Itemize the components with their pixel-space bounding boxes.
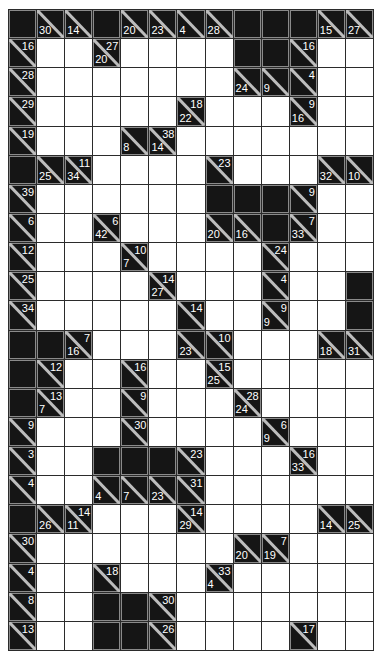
entry-cell[interactable]: [149, 243, 176, 271]
entry-cell[interactable]: [93, 534, 120, 562]
entry-cell[interactable]: [65, 127, 92, 155]
entry-cell[interactable]: [65, 243, 92, 271]
entry-cell[interactable]: [206, 272, 233, 300]
entry-cell[interactable]: [177, 156, 204, 184]
entry-cell[interactable]: [121, 564, 148, 592]
entry-cell[interactable]: [262, 127, 289, 155]
entry-cell[interactable]: [177, 360, 204, 388]
entry-cell[interactable]: [93, 68, 120, 96]
entry-cell[interactable]: [121, 156, 148, 184]
entry-cell[interactable]: [121, 185, 148, 213]
entry-cell[interactable]: [206, 534, 233, 562]
entry-cell[interactable]: [346, 534, 373, 562]
entry-cell[interactable]: [149, 564, 176, 592]
entry-cell[interactable]: [206, 301, 233, 329]
entry-cell[interactable]: [65, 418, 92, 446]
entry-cell[interactable]: [65, 185, 92, 213]
entry-cell[interactable]: [346, 68, 373, 96]
entry-cell[interactable]: [37, 622, 64, 650]
entry-cell[interactable]: [290, 127, 317, 155]
entry-cell[interactable]: [65, 214, 92, 242]
entry-cell[interactable]: [346, 185, 373, 213]
entry-cell[interactable]: [234, 447, 261, 475]
entry-cell[interactable]: [149, 331, 176, 359]
entry-cell[interactable]: [318, 301, 345, 329]
entry-cell[interactable]: [37, 418, 64, 446]
entry-cell[interactable]: [318, 564, 345, 592]
entry-cell[interactable]: [37, 214, 64, 242]
entry-cell[interactable]: [290, 505, 317, 533]
entry-cell[interactable]: [93, 243, 120, 271]
entry-cell[interactable]: [65, 534, 92, 562]
entry-cell[interactable]: [93, 301, 120, 329]
entry-cell[interactable]: [65, 360, 92, 388]
entry-cell[interactable]: [65, 476, 92, 504]
entry-cell[interactable]: [93, 127, 120, 155]
entry-cell[interactable]: [346, 127, 373, 155]
entry-cell[interactable]: [37, 39, 64, 67]
entry-cell[interactable]: [37, 272, 64, 300]
entry-cell[interactable]: [234, 272, 261, 300]
entry-cell[interactable]: [318, 214, 345, 242]
entry-cell[interactable]: [234, 243, 261, 271]
entry-cell[interactable]: [177, 418, 204, 446]
entry-cell[interactable]: [121, 505, 148, 533]
entry-cell[interactable]: [290, 593, 317, 621]
entry-cell[interactable]: [206, 476, 233, 504]
entry-cell[interactable]: [37, 97, 64, 125]
entry-cell[interactable]: [149, 534, 176, 562]
entry-cell[interactable]: [65, 622, 92, 650]
entry-cell[interactable]: [234, 331, 261, 359]
entry-cell[interactable]: [290, 418, 317, 446]
entry-cell[interactable]: [318, 39, 345, 67]
entry-cell[interactable]: [177, 593, 204, 621]
entry-cell[interactable]: [177, 622, 204, 650]
entry-cell[interactable]: [318, 389, 345, 417]
entry-cell[interactable]: [318, 593, 345, 621]
entry-cell[interactable]: [262, 360, 289, 388]
entry-cell[interactable]: [290, 331, 317, 359]
entry-cell[interactable]: [318, 272, 345, 300]
entry-cell[interactable]: [318, 418, 345, 446]
entry-cell[interactable]: [318, 622, 345, 650]
entry-cell[interactable]: [234, 360, 261, 388]
entry-cell[interactable]: [121, 301, 148, 329]
entry-cell[interactable]: [318, 360, 345, 388]
entry-cell[interactable]: [93, 272, 120, 300]
entry-cell[interactable]: [65, 39, 92, 67]
entry-cell[interactable]: [65, 272, 92, 300]
entry-cell[interactable]: [65, 301, 92, 329]
entry-cell[interactable]: [234, 418, 261, 446]
entry-cell[interactable]: [177, 243, 204, 271]
entry-cell[interactable]: [346, 389, 373, 417]
entry-cell[interactable]: [121, 97, 148, 125]
entry-cell[interactable]: [262, 593, 289, 621]
entry-cell[interactable]: [206, 39, 233, 67]
entry-cell[interactable]: [206, 127, 233, 155]
entry-cell[interactable]: [93, 97, 120, 125]
entry-cell[interactable]: [65, 97, 92, 125]
entry-cell[interactable]: [37, 534, 64, 562]
entry-cell[interactable]: [149, 418, 176, 446]
entry-cell[interactable]: [262, 97, 289, 125]
entry-cell[interactable]: [65, 593, 92, 621]
entry-cell[interactable]: [346, 476, 373, 504]
entry-cell[interactable]: [149, 39, 176, 67]
entry-cell[interactable]: [177, 214, 204, 242]
entry-cell[interactable]: [37, 243, 64, 271]
entry-cell[interactable]: [121, 272, 148, 300]
entry-cell[interactable]: [262, 476, 289, 504]
entry-cell[interactable]: [93, 389, 120, 417]
entry-cell[interactable]: [149, 97, 176, 125]
entry-cell[interactable]: [262, 156, 289, 184]
entry-cell[interactable]: [177, 564, 204, 592]
entry-cell[interactable]: [234, 301, 261, 329]
entry-cell[interactable]: [234, 476, 261, 504]
entry-cell[interactable]: [121, 331, 148, 359]
entry-cell[interactable]: [346, 97, 373, 125]
entry-cell[interactable]: [206, 97, 233, 125]
entry-cell[interactable]: [65, 68, 92, 96]
entry-cell[interactable]: [65, 564, 92, 592]
entry-cell[interactable]: [206, 622, 233, 650]
entry-cell[interactable]: [93, 185, 120, 213]
